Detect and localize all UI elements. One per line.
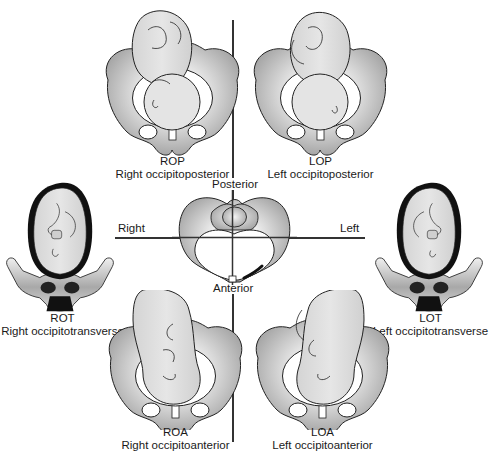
- label-rop: ROP Right occipitoposterior: [100, 155, 245, 181]
- label-roa-abbr: ROA: [103, 426, 248, 439]
- label-lop-abbr: LOP: [248, 155, 393, 168]
- axis-label-right: Right: [118, 222, 145, 234]
- axis-label-left: Left: [340, 222, 359, 234]
- label-rop-name: Right occipitoposterior: [100, 168, 245, 181]
- figure-rop: [100, 10, 245, 160]
- figure-loa: [250, 290, 395, 430]
- label-roa-name: Right occipitoanterior: [103, 439, 248, 452]
- label-rop-abbr: ROP: [100, 155, 245, 168]
- label-loa: LOA Left occipitoanterior: [250, 426, 395, 452]
- center-pelvis-illustration: [172, 190, 297, 285]
- label-roa: ROA Right occipitoanterior: [103, 426, 248, 452]
- figure-roa: [103, 290, 248, 430]
- label-loa-abbr: LOA: [250, 426, 395, 439]
- label-lop-name: Left occipitoposterior: [248, 168, 393, 181]
- figure-lop: [248, 10, 393, 160]
- label-loa-name: Left occipitoanterior: [250, 439, 395, 452]
- label-lop: LOP Left occipitoposterior: [248, 155, 393, 181]
- figure-rot: [5, 178, 115, 313]
